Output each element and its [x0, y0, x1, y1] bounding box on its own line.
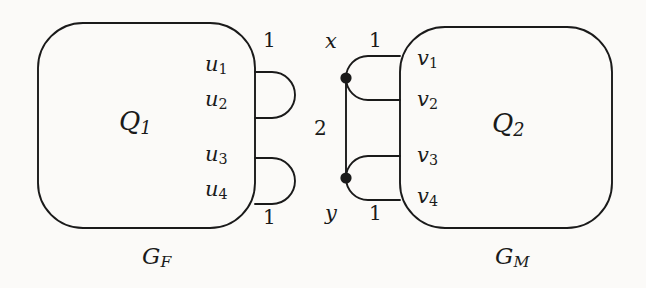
vertex-dot-y — [340, 172, 351, 183]
left-edge-weight-upper: 1 — [263, 30, 276, 50]
right-block-caption-sub: M — [513, 252, 529, 271]
terminal-v2: v2 — [417, 89, 438, 111]
terminal-v3-sub: 3 — [429, 152, 438, 168]
right-block-label: Q2 — [492, 110, 525, 140]
terminal-v4-text: v — [417, 184, 429, 208]
terminal-v1-sub: 1 — [429, 55, 438, 71]
diagram-canvas — [0, 0, 646, 288]
left-edge-weight-lower: 1 — [263, 207, 276, 227]
terminal-v3-text: v — [417, 143, 429, 167]
left-loop-upper — [255, 72, 295, 118]
left-loop-lower — [255, 158, 295, 204]
right-block-caption-text: G — [495, 243, 513, 269]
left-block-caption-sub: F — [160, 252, 171, 271]
terminal-v1-text: v — [417, 46, 429, 70]
left-block-label-text: Q — [119, 106, 140, 136]
terminal-u2-text: u — [205, 87, 219, 111]
terminal-u3-sub: 3 — [219, 151, 228, 167]
vertex-label-y: y — [325, 203, 337, 224]
right-edge-weight-lower: 1 — [369, 203, 382, 223]
terminal-u4-sub: 4 — [219, 186, 228, 202]
vertex-label-x: x — [325, 31, 337, 52]
terminal-v3: v3 — [417, 145, 438, 167]
left-block-caption-text: G — [142, 243, 160, 269]
edge-y-to-v4 — [346, 178, 400, 200]
terminal-u1-sub: 1 — [219, 61, 228, 77]
terminal-u1: u1 — [205, 54, 228, 76]
terminal-u2: u2 — [205, 89, 228, 111]
right-block-label-text: Q — [492, 108, 513, 138]
graph-gadget-figure: Q1 u1 u2 u3 u4 1 1 x y 2 1 1 v1 v2 v3 v4… — [0, 0, 646, 288]
terminal-u2-sub: 2 — [219, 96, 228, 112]
terminal-u1-text: u — [205, 52, 219, 76]
terminal-v2-sub: 2 — [429, 96, 438, 112]
terminal-u4: u4 — [205, 179, 228, 201]
edge-x-to-v1 — [346, 56, 400, 78]
terminal-u3: u3 — [205, 144, 228, 166]
right-block-label-sub: 2 — [513, 120, 524, 140]
terminal-v4: v4 — [417, 186, 438, 208]
vertex-dot-x — [340, 72, 351, 83]
middle-edge-weight: 2 — [314, 118, 327, 138]
left-block-label: Q1 — [119, 108, 152, 138]
left-block-caption: GF — [142, 245, 171, 270]
terminal-u4-text: u — [205, 177, 219, 201]
left-block-label-sub: 1 — [140, 118, 151, 138]
right-block-caption: GM — [495, 245, 529, 270]
terminal-v2-text: v — [417, 87, 429, 111]
terminal-u3-text: u — [205, 142, 219, 166]
terminal-v1: v1 — [417, 48, 438, 70]
right-edge-weight-upper: 1 — [369, 30, 382, 50]
terminal-v4-sub: 4 — [429, 193, 438, 209]
edge-x-to-v2 — [346, 78, 400, 100]
edge-y-to-v3 — [346, 156, 400, 178]
